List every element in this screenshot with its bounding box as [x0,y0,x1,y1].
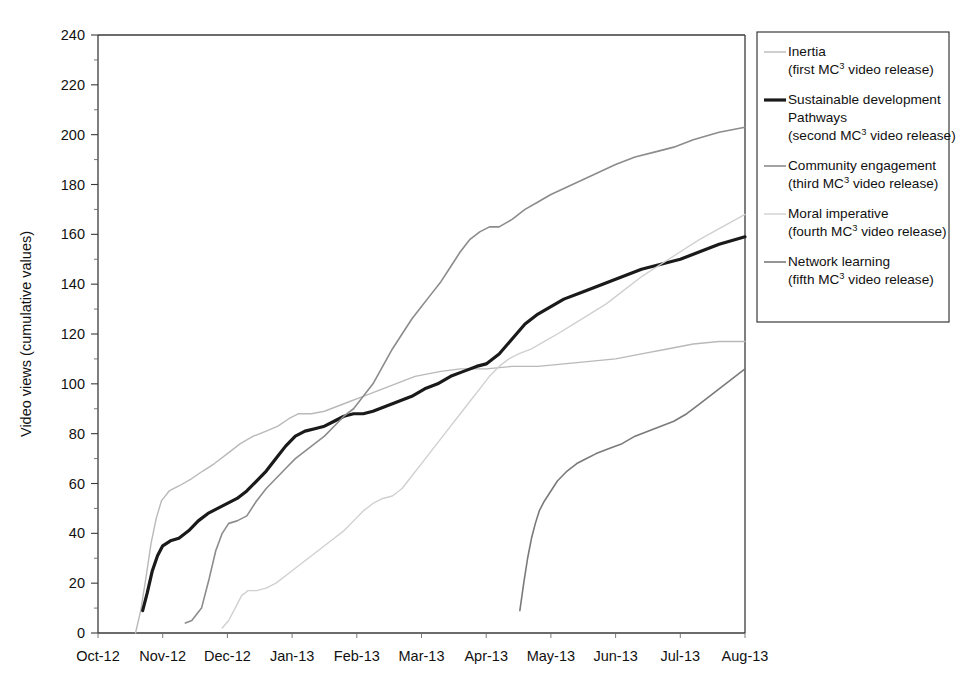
legend-sublabel-prefix: (fourth MC [788,224,852,239]
y-tick-label: 240 [61,27,85,43]
y-tick-label: 180 [61,177,85,193]
legend-sublabel-prefix: (first MC [788,62,840,77]
legend-sublabel-prefix: (fifth MC [788,272,840,287]
y-axis-title: Video views (cumulative values) [18,231,34,437]
series-line-network-learning [520,369,745,611]
x-tick-label: May-13 [527,648,575,664]
legend-sublabel-prefix: (third MC [788,176,844,191]
series-line-community-engagement [185,127,745,623]
y-tick-label: 40 [69,525,85,541]
y-tick-label: 80 [69,426,85,442]
y-tick-label: 220 [61,77,85,93]
y-axis-ticks: 020406080100120140160180200220240 [61,27,98,641]
legend-label: Network learning [788,254,890,269]
x-tick-label: Mar-13 [399,648,445,664]
y-tick-label: 200 [61,127,85,143]
x-tick-label: Jul-13 [661,648,701,664]
x-tick-label: Nov-12 [139,648,186,664]
x-tick-label: Jun-13 [593,648,637,664]
series-layer [136,127,745,633]
legend-sublabel: (first MC3 video release) [788,60,934,77]
y-tick-label: 60 [69,476,85,492]
x-tick-label: Aug-13 [722,648,769,664]
x-tick-label: Dec-12 [204,648,251,664]
video-views-line-chart: 020406080100120140160180200220240Oct-12N… [0,0,977,693]
legend-label: Inertia [788,44,826,59]
series-line-inertia [136,341,745,633]
y-tick-label: 100 [61,376,85,392]
legend-sublabel: (fourth MC3 video release) [788,222,947,239]
x-axis-ticks: Oct-12Nov-12Dec-12Jan-13Feb-13Mar-13Apr-… [76,633,768,664]
legend-label: Sustainable development [788,92,941,107]
legend-label: Moral imperative [788,206,888,221]
y-tick-label: 120 [61,326,85,342]
legend-sublabel-suffix: video release) [867,128,956,143]
legend-sublabel-suffix: video release) [857,224,946,239]
y-tick-label: 160 [61,226,85,242]
legend-label: Community engagement [788,158,936,173]
x-tick-label: Oct-12 [76,648,120,664]
legend: Inertia(first MC3 video release)Sustaina… [757,32,956,322]
series-line-sustainable-development-pathways [143,237,745,611]
x-tick-label: Feb-13 [334,648,380,664]
legend-sublabel: (third MC3 video release) [788,174,938,191]
chart-figure: 020406080100120140160180200220240Oct-12N… [0,0,977,693]
x-tick-label: Apr-13 [464,648,508,664]
legend-sublabel-suffix: video release) [849,176,938,191]
legend-sublabel: (fifth MC3 video release) [788,270,934,287]
legend-sublabel-suffix: video release) [845,62,934,77]
series-line-moral-imperative [222,214,745,628]
legend-sublabel-prefix: (second MC [788,128,861,143]
legend-sublabel: (second MC3 video release) [788,126,956,143]
y-tick-label: 140 [61,276,85,292]
legend-label-line2: Pathways [788,110,847,125]
legend-sublabel-suffix: video release) [845,272,934,287]
y-tick-label: 0 [77,625,85,641]
x-tick-label: Jan-13 [270,648,314,664]
y-tick-label: 20 [69,575,85,591]
